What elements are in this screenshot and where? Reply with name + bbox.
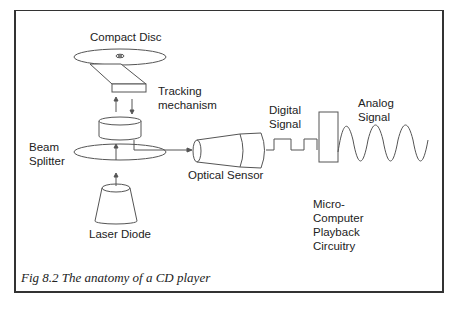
optical-sensor-shape [193,133,265,168]
label-laser-diode: Laser Diode [89,227,151,241]
label-beam-splitter: Beam Splitter [29,140,65,168]
beam-splitter-shape [74,140,192,160]
analog-signal-waveform [338,125,428,161]
figure-caption: Fig 8.2 The anatomy of a CD player [21,270,210,286]
compact-disc-shape [74,49,166,65]
tracking-arrows [114,97,134,114]
label-compact-disc: Compact Disc [90,30,162,44]
tracking-mechanism-shape [90,64,146,92]
label-optical-sensor: Optical Sensor [188,168,263,182]
label-analog-signal: Analog Signal [358,96,394,124]
digital-signal-waveform [266,139,317,150]
label-digital-signal: Digital Signal [269,103,301,131]
lens-shape [99,117,141,140]
laser-diode-shape [95,173,137,224]
label-tracking-mechanism: Tracking mechanism [158,84,217,112]
micro-computer-box [319,112,338,162]
label-micro-computer: Micro- Computer Playback Circuitry [313,197,364,253]
cd-player-diagram [0,0,458,310]
